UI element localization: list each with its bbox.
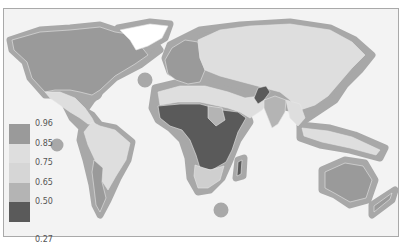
legend-label: 0.85 bbox=[35, 139, 53, 148]
region-madagascar[interactable] bbox=[237, 160, 242, 176]
legend-label: 0.75 bbox=[35, 158, 53, 167]
legend-swatch bbox=[9, 202, 30, 222]
legend-swatch bbox=[9, 163, 30, 183]
legend-swatch bbox=[9, 124, 30, 144]
legend-swatch bbox=[9, 144, 30, 164]
map-legend: 0.96 0.85 0.75 0.65 0.50 0.27 bbox=[9, 124, 69, 222]
legend-label: 0.27 bbox=[35, 235, 53, 244]
legend-row: 0.50 bbox=[9, 202, 69, 222]
legend-label: 0.96 bbox=[35, 119, 53, 128]
region-india[interactable] bbox=[264, 96, 286, 128]
legend-swatch bbox=[9, 183, 30, 203]
legend-label: 0.50 bbox=[35, 197, 53, 206]
legend-label: 0.65 bbox=[35, 178, 53, 187]
